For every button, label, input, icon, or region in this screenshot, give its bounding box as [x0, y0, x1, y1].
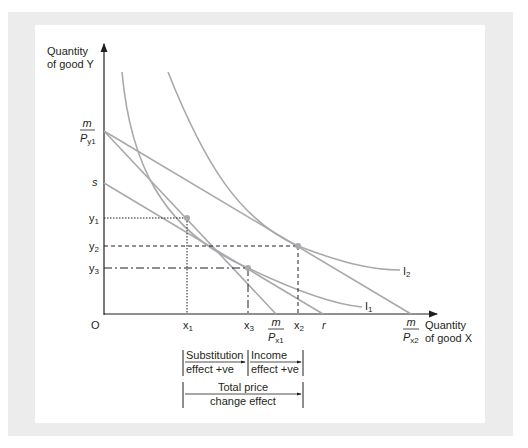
m-px1-numerator: m — [271, 316, 280, 328]
m-px2-numerator: m — [406, 316, 415, 328]
m-py1-numerator: m — [82, 117, 91, 129]
point-compensated — [245, 265, 251, 271]
total-effect-line1: Total price — [218, 381, 268, 393]
income-effect-line2: effect +ve — [251, 363, 299, 375]
m-py1-denominator: Py1 — [80, 132, 96, 146]
x2-label: x2 — [294, 319, 305, 333]
income-effect-line1: Income — [251, 349, 287, 361]
point-original — [184, 215, 190, 221]
x3-label: x3 — [244, 319, 255, 333]
y-axis-label-line2: of good Y — [47, 58, 95, 70]
m-px2-denominator: Px2 — [403, 331, 419, 345]
total-effect-line2: change effect — [210, 395, 276, 407]
x-axis-label-line2: of good X — [425, 332, 473, 344]
m-px1-denominator: Px1 — [268, 331, 284, 345]
y3-label: y3 — [89, 262, 100, 276]
substitution-effect-line1: Substitution — [186, 349, 243, 361]
budget-line-new — [104, 131, 411, 314]
indifference-diagram: Quantity of good Y m Py1 s y1 y2 y3 O x1… — [0, 0, 528, 448]
point-new — [295, 243, 301, 249]
I2-label: I2 — [403, 265, 411, 279]
y-axis-label-line1: Quantity — [47, 45, 88, 57]
r-label: r — [322, 319, 327, 331]
s-label: s — [92, 176, 98, 188]
substitution-effect-line2: effect +ve — [186, 363, 234, 375]
budget-line-compensated — [104, 183, 323, 314]
x1-label: x1 — [183, 319, 194, 333]
budget-line-original — [104, 131, 276, 314]
origin-label: O — [91, 319, 100, 331]
I1-label: I1 — [365, 300, 373, 314]
x-axis-label-line1: Quantity — [425, 319, 466, 331]
y2-label: y2 — [89, 240, 100, 254]
y1-label: y1 — [89, 212, 100, 226]
indifference-curve-I2 — [168, 72, 400, 270]
